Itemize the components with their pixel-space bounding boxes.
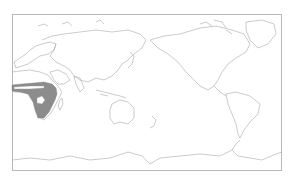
arabia-coastline bbox=[50, 70, 70, 84]
india-coastline bbox=[74, 76, 84, 92]
new-zealand-coastline bbox=[150, 116, 156, 128]
antarctic-peninsula-coastline bbox=[232, 140, 240, 150]
north-america-coastline bbox=[150, 26, 250, 90]
arctic-islands-coastline bbox=[38, 20, 104, 26]
asia-coastline bbox=[42, 30, 146, 82]
south-america-coastline bbox=[226, 92, 260, 138]
europe-coastline bbox=[14, 42, 56, 68]
madagascar-coastline bbox=[58, 98, 63, 110]
greenland-coastline bbox=[246, 20, 276, 48]
world-map bbox=[0, 0, 295, 180]
australia-coastline bbox=[110, 100, 134, 124]
indonesia-coastline bbox=[96, 90, 126, 98]
antarctica-coastline bbox=[12, 150, 282, 164]
central-america-coastline bbox=[214, 86, 226, 96]
canadian-archipelago-coastline bbox=[200, 20, 232, 34]
japan-coastline bbox=[128, 52, 134, 68]
